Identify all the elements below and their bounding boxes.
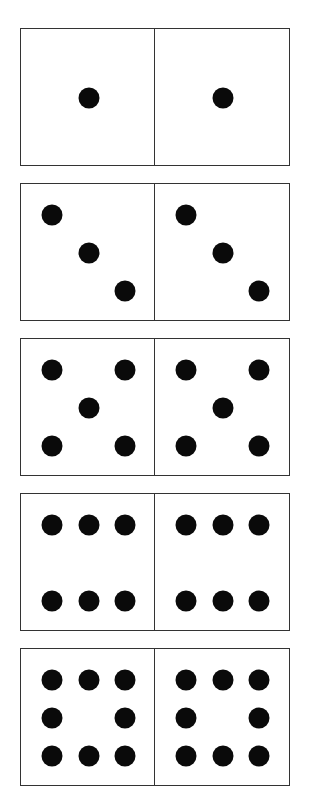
pip-dot-icon xyxy=(176,591,197,612)
pip-dot-icon xyxy=(42,708,63,729)
pip-dot-icon xyxy=(42,591,63,612)
pip-dot-icon xyxy=(115,360,136,381)
pip-dot-icon xyxy=(176,670,197,691)
pip-dot-icon xyxy=(79,591,100,612)
pip-dot-icon xyxy=(42,205,63,226)
pip-dot-icon xyxy=(213,591,234,612)
pip-dot-icon xyxy=(249,436,270,457)
pip-dot-icon xyxy=(249,281,270,302)
pip-dot-icon xyxy=(249,515,270,536)
domino-1-1 xyxy=(20,28,290,166)
domino-half-right xyxy=(155,29,289,165)
domino-half-left xyxy=(21,339,155,475)
pip-dot-icon xyxy=(115,591,136,612)
domino-8-8 xyxy=(20,648,290,786)
pip-dot-icon xyxy=(176,746,197,767)
domino-half-left xyxy=(21,649,155,785)
pip-dot-icon xyxy=(176,205,197,226)
pip-dot-icon xyxy=(176,360,197,381)
domino-5-5 xyxy=(20,338,290,476)
pip-dot-icon xyxy=(249,746,270,767)
pip-dot-icon xyxy=(42,515,63,536)
pip-dot-icon xyxy=(42,360,63,381)
pip-dot-icon xyxy=(176,515,197,536)
pip-dot-icon xyxy=(79,398,100,419)
pip-dot-icon xyxy=(115,281,136,302)
pip-dot-icon xyxy=(79,243,100,264)
domino-3-3 xyxy=(20,183,290,321)
pip-dot-icon xyxy=(115,708,136,729)
pip-dot-icon xyxy=(176,436,197,457)
pip-dot-icon xyxy=(249,670,270,691)
domino-6-6 xyxy=(20,493,290,631)
pip-dot-icon xyxy=(213,398,234,419)
pip-dot-icon xyxy=(115,515,136,536)
pip-dot-icon xyxy=(249,591,270,612)
pip-dot-icon xyxy=(42,670,63,691)
pip-dot-icon xyxy=(249,708,270,729)
pip-dot-icon xyxy=(249,360,270,381)
domino-half-left xyxy=(21,494,155,630)
pip-dot-icon xyxy=(42,436,63,457)
pip-dot-icon xyxy=(79,88,100,109)
pip-dot-icon xyxy=(79,515,100,536)
pip-dot-icon xyxy=(213,243,234,264)
pip-dot-icon xyxy=(115,670,136,691)
pip-dot-icon xyxy=(42,746,63,767)
domino-half-right xyxy=(155,184,289,320)
pip-dot-icon xyxy=(115,436,136,457)
pip-dot-icon xyxy=(115,746,136,767)
domino-half-left xyxy=(21,184,155,320)
domino-half-right xyxy=(155,494,289,630)
pip-dot-icon xyxy=(176,708,197,729)
domino-half-right xyxy=(155,339,289,475)
pip-dot-icon xyxy=(213,746,234,767)
pip-dot-icon xyxy=(213,88,234,109)
pip-dot-icon xyxy=(213,515,234,536)
pip-dot-icon xyxy=(79,746,100,767)
domino-half-right xyxy=(155,649,289,785)
pip-dot-icon xyxy=(79,670,100,691)
pip-dot-icon xyxy=(213,670,234,691)
domino-half-left xyxy=(21,29,155,165)
